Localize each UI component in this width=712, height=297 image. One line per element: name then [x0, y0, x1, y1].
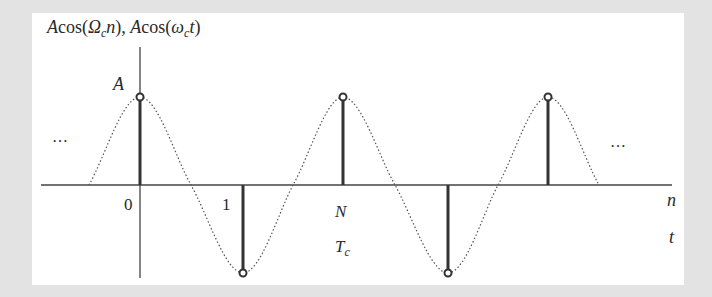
tick-label-1: 1: [222, 195, 231, 214]
sample-marker: [240, 270, 247, 277]
sample-marker: [340, 94, 347, 101]
axis-label-t: t: [669, 227, 675, 247]
tick-label-N: N: [334, 202, 348, 221]
period-label-Tc: Tc: [335, 237, 350, 259]
cosine-stem-diagram: Acos(Ωcn), Acos(ωct) A … … 0 1 N Tc n t: [32, 13, 684, 285]
stem-sample-3: [445, 185, 452, 277]
sample-marker: [545, 94, 552, 101]
stem-sample-N: [340, 94, 347, 186]
stem-sample-4: [545, 94, 552, 186]
ellipsis-right: …: [610, 133, 626, 150]
ellipsis-left: …: [52, 128, 68, 145]
stem-sample-0: [137, 94, 144, 186]
amplitude-label: A: [112, 74, 125, 94]
axis-label-n: n: [667, 190, 676, 210]
vertical-axis-title: Acos(Ωcn), Acos(ωct): [46, 17, 200, 40]
sample-marker: [137, 94, 144, 101]
stem-sample-1: [240, 185, 247, 277]
tick-label-0: 0: [124, 195, 133, 214]
diagram-canvas: Acos(Ωcn), Acos(ωct) A … … 0 1 N Tc n t: [32, 13, 684, 285]
sample-marker: [445, 270, 452, 277]
